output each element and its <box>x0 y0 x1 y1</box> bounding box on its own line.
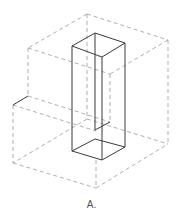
visible-edge <box>102 43 125 57</box>
hidden-edge <box>110 40 168 74</box>
visible-edge <box>95 33 125 43</box>
figure-label: A. <box>0 199 183 210</box>
visible-edge <box>72 46 102 57</box>
visible-edge <box>72 151 102 160</box>
hidden-edge <box>13 163 96 188</box>
visible-edge <box>95 139 125 147</box>
hidden-edge <box>87 14 168 40</box>
hidden-edge <box>13 105 96 131</box>
visible-edge <box>102 147 125 160</box>
hidden-edge <box>28 96 110 122</box>
hidden-edge <box>96 144 168 188</box>
visible-edge <box>72 33 95 46</box>
hidden-edges <box>13 14 168 188</box>
visible-edge <box>13 96 28 105</box>
hidden-edge <box>28 48 110 74</box>
isometric-drawing <box>0 0 183 218</box>
visible-edge <box>72 139 95 151</box>
hidden-edge <box>13 119 87 163</box>
